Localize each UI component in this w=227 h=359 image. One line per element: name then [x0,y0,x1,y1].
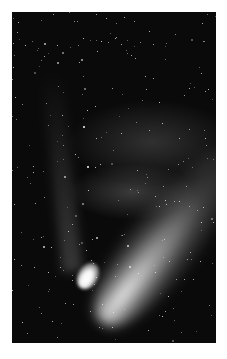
star [196,331,197,332]
star [209,305,210,306]
star [155,272,156,273]
star [197,210,198,211]
star [33,166,34,167]
star [205,91,206,92]
star [131,55,132,56]
star [142,100,143,101]
star [137,190,138,191]
star [88,190,89,191]
star [37,50,38,51]
star [84,88,86,90]
star [165,200,166,201]
star [154,265,155,266]
star [93,263,94,264]
star [172,340,174,342]
star [38,48,39,49]
star [204,130,205,131]
star [22,104,23,105]
star [201,230,202,231]
star [64,240,65,241]
star [155,196,156,197]
star [115,339,116,340]
star [128,108,129,109]
star [119,116,120,117]
star [52,321,53,322]
star [86,250,87,251]
star [53,14,54,15]
star [140,42,141,43]
star [73,304,74,305]
star [44,56,45,57]
star [101,41,102,42]
star [55,276,56,277]
star [156,206,157,207]
star [118,200,119,201]
star [113,150,114,151]
star [28,285,29,286]
star [168,169,169,170]
star [208,89,209,90]
star [162,240,163,241]
star [50,115,51,116]
star [39,66,40,67]
star [186,186,187,187]
star [213,159,214,160]
star [127,214,128,215]
star [91,260,92,261]
star [165,311,166,312]
star [96,277,97,278]
star [191,39,193,41]
star [106,132,107,133]
star [129,266,131,268]
star [163,257,164,258]
star [159,315,160,316]
star [207,158,208,159]
star [57,161,58,162]
star [41,313,42,314]
star [124,17,125,18]
star [178,164,179,165]
star [21,232,22,233]
star [165,46,166,47]
star [101,137,102,138]
star [183,161,184,162]
star [19,39,20,40]
star [69,12,70,13]
star [145,76,146,77]
star [189,129,190,130]
star [30,183,31,184]
star [78,45,79,46]
star [160,293,161,294]
comet-photo [12,12,216,343]
star [201,222,202,223]
star [215,16,216,17]
star [90,311,91,312]
star [48,125,49,126]
star [90,40,91,41]
star [111,163,113,165]
star [108,42,109,43]
star [138,192,139,193]
star [159,206,160,207]
star [74,21,75,22]
star [60,267,61,268]
star [17,32,18,33]
star [136,122,137,123]
star [17,167,18,168]
star [96,14,97,15]
star [146,89,147,90]
star [146,174,147,175]
star [57,62,59,64]
star [57,141,58,142]
star [70,47,71,48]
star [48,53,49,54]
star [67,207,68,208]
star [83,38,84,39]
star [168,296,169,297]
star [48,272,49,273]
star [12,170,13,171]
star [188,158,189,159]
star [199,67,200,68]
star [212,263,213,264]
star [169,261,170,262]
